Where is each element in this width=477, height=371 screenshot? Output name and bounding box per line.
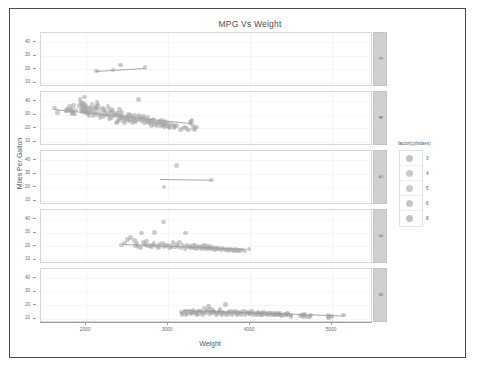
y-tick-mark bbox=[33, 141, 36, 142]
y-tick-label: 20 bbox=[0, 243, 30, 248]
legend-item-8[interactable]: 8 bbox=[400, 211, 422, 226]
data-point bbox=[152, 230, 157, 235]
x-tick-label: 5000 bbox=[314, 327, 348, 332]
data-point bbox=[139, 231, 144, 236]
legend-item-5[interactable]: 5 bbox=[400, 181, 422, 196]
data-point bbox=[223, 302, 228, 307]
legend-item-label: 5 bbox=[426, 186, 429, 191]
y-tick-mark bbox=[33, 100, 36, 101]
data-point bbox=[162, 185, 167, 190]
y-tick-mark bbox=[33, 114, 36, 115]
legend-key-circle-icon bbox=[406, 170, 413, 177]
facet-panel-4: 4 bbox=[40, 91, 388, 145]
facet-panel-5: 5 bbox=[40, 150, 388, 204]
data-point bbox=[329, 314, 334, 319]
x-tick-label: 3000 bbox=[150, 327, 184, 332]
data-point bbox=[111, 68, 116, 73]
legend-item-label: 4 bbox=[426, 171, 429, 176]
facet-strip-label: 3 bbox=[379, 43, 384, 75]
data-point bbox=[82, 95, 87, 100]
y-tick-mark bbox=[33, 127, 36, 128]
facet-panel-body bbox=[40, 150, 372, 204]
legend-key-circle-icon bbox=[406, 155, 413, 162]
y-tick-mark bbox=[33, 277, 36, 278]
y-tick-mark bbox=[33, 291, 36, 292]
facet-strip-6: 6 bbox=[373, 209, 387, 263]
facet-strip-label: 6 bbox=[379, 220, 384, 252]
legend-item-6[interactable]: 6 bbox=[400, 196, 422, 211]
y-tick-label: 40 bbox=[0, 98, 30, 103]
x-tick-mark bbox=[331, 322, 332, 325]
data-point bbox=[136, 97, 141, 102]
legend-key-circle-icon bbox=[406, 185, 413, 192]
facet-strip-4: 4 bbox=[373, 91, 387, 145]
legend-item-4[interactable]: 4 bbox=[400, 166, 422, 181]
legend-key-circle-icon bbox=[406, 200, 413, 207]
scatter-points bbox=[41, 151, 373, 205]
y-tick-label: 40 bbox=[0, 157, 30, 162]
y-tick-mark bbox=[33, 82, 36, 83]
data-point bbox=[341, 313, 346, 318]
y-tick-mark bbox=[33, 259, 36, 260]
data-point bbox=[309, 313, 314, 318]
data-point bbox=[186, 128, 191, 133]
y-tick-mark bbox=[33, 218, 36, 219]
facet-strip-label: 5 bbox=[379, 161, 384, 193]
data-point bbox=[161, 220, 166, 225]
y-tick-label: 20 bbox=[0, 66, 30, 71]
data-point bbox=[174, 163, 179, 168]
y-tick-mark bbox=[33, 159, 36, 160]
y-tick-mark bbox=[33, 68, 36, 69]
x-axis-label: Weight bbox=[165, 340, 255, 347]
legend-item-3[interactable]: 3 bbox=[400, 151, 422, 166]
scatter-points bbox=[41, 92, 373, 146]
data-point bbox=[247, 247, 252, 252]
legend-items: 34568 bbox=[399, 150, 423, 227]
x-axis-line bbox=[40, 322, 372, 323]
x-tick-mark bbox=[249, 322, 250, 325]
facet-panel-8: 8 bbox=[40, 268, 388, 322]
data-point bbox=[209, 178, 214, 183]
y-tick-label: 40 bbox=[0, 275, 30, 280]
chart-plot-area: MPG Vs Weight Miles Per Gallon Weight 34… bbox=[0, 0, 477, 371]
legend-key-circle-icon bbox=[406, 215, 413, 222]
data-point bbox=[73, 112, 78, 117]
legend-item-label: 3 bbox=[426, 156, 429, 161]
data-point bbox=[55, 110, 60, 115]
y-tick-label: 30 bbox=[0, 52, 30, 57]
y-tick-label: 10 bbox=[0, 79, 30, 84]
facet-strip-label: 8 bbox=[379, 279, 384, 311]
scatter-points bbox=[41, 269, 373, 323]
facet-strip-label: 4 bbox=[379, 102, 384, 134]
y-tick-mark bbox=[33, 41, 36, 42]
trend-line bbox=[160, 179, 212, 181]
y-tick-label: 20 bbox=[0, 302, 30, 307]
y-tick-label: 20 bbox=[0, 125, 30, 130]
facet-strip-3: 3 bbox=[373, 32, 387, 86]
scatter-points bbox=[41, 33, 373, 87]
data-point bbox=[190, 118, 195, 123]
y-tick-mark bbox=[33, 232, 36, 233]
legend-item-label: 6 bbox=[426, 201, 429, 206]
y-tick-mark bbox=[33, 200, 36, 201]
x-tick-label: 4000 bbox=[232, 327, 266, 332]
data-point bbox=[94, 69, 99, 74]
y-tick-label: 10 bbox=[0, 256, 30, 261]
y-tick-label: 30 bbox=[0, 170, 30, 175]
y-tick-mark bbox=[33, 318, 36, 319]
y-tick-label: 40 bbox=[0, 39, 30, 44]
data-point bbox=[118, 63, 123, 68]
facet-panel-body bbox=[40, 32, 372, 86]
y-tick-label: 30 bbox=[0, 111, 30, 116]
facet-panel-6: 6 bbox=[40, 209, 388, 263]
y-tick-label: 10 bbox=[0, 315, 30, 320]
facet-strip-8: 8 bbox=[373, 268, 387, 322]
facet-panel-body bbox=[40, 209, 372, 263]
y-tick-label: 10 bbox=[0, 197, 30, 202]
y-tick-label: 30 bbox=[0, 288, 30, 293]
facet-panel-3: 3 bbox=[40, 32, 388, 86]
x-tick-mark bbox=[167, 322, 168, 325]
legend-title: factor(cylinders) bbox=[398, 141, 458, 146]
facet-panel-stack: 34568 bbox=[40, 32, 372, 322]
y-tick-label: 30 bbox=[0, 229, 30, 234]
